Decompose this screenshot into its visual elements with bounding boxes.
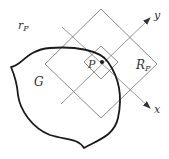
label-P: P bbox=[87, 58, 96, 71]
label-r-P: rP bbox=[18, 19, 29, 33]
label-R-P-subscript: P bbox=[144, 64, 151, 73]
diagram-canvas: rP G P RP x y bbox=[0, 0, 169, 159]
label-y-axis: y bbox=[153, 9, 161, 22]
label-G: G bbox=[34, 75, 44, 89]
label-r-P-subscript: P bbox=[22, 24, 29, 33]
point-P-dot bbox=[100, 60, 104, 64]
label-x-axis: x bbox=[154, 103, 161, 116]
label-R-P: RP bbox=[135, 58, 151, 73]
